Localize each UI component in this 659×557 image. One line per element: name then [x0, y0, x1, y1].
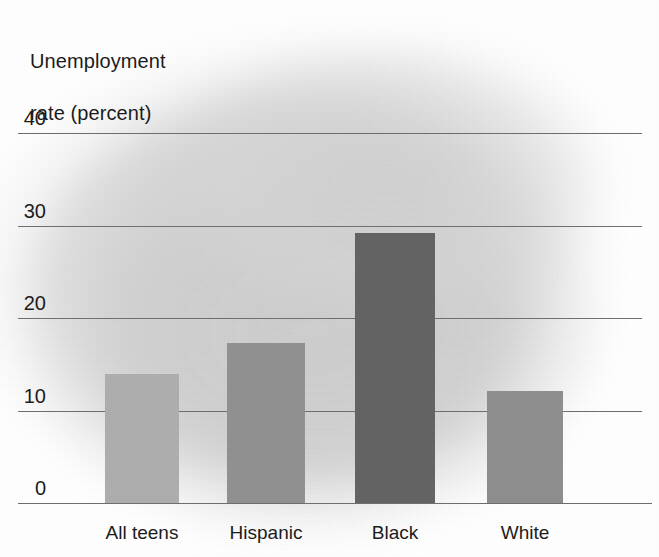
bar-black [355, 233, 435, 503]
gridline-20 [18, 318, 642, 319]
y-axis-tick-label-10: 10 [0, 385, 46, 408]
x-axis-tick-label-white: White [457, 522, 593, 544]
gridline-40 [18, 133, 642, 134]
y-axis-tick-label-40: 40 [0, 107, 46, 130]
x-axis-tick-label-hispanic: Hispanic [197, 522, 335, 544]
chart-title-line-2: rate (percent) [30, 100, 166, 126]
y-axis-tick-label-20: 20 [0, 292, 46, 315]
bar-white [487, 391, 563, 503]
bar-all-teens [105, 374, 179, 504]
chart-title-line-1: Unemployment [30, 48, 166, 74]
unemployment-rate-bar-chart: Unemployment rate (percent) 010203040All… [0, 0, 659, 557]
x-axis-tick-label-all-teens: All teens [75, 522, 209, 544]
bar-hispanic [227, 343, 305, 503]
gridline-30 [18, 226, 642, 227]
y-axis-tick-label-30: 30 [0, 200, 46, 223]
x-axis-baseline [18, 503, 652, 504]
y-axis-tick-label-0: 0 [0, 477, 46, 500]
x-axis-tick-label-black: Black [325, 522, 465, 544]
